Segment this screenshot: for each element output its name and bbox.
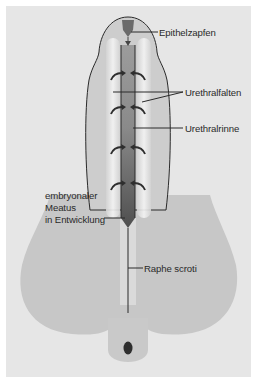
label-epithelzapfen: Epithelzapfen [159,27,216,38]
label-raphe-scroti: Raphe scroti [144,263,197,274]
anal-opening [124,342,133,355]
label-meatus-line3: in Entwicklung [45,214,105,225]
label-meatus-line1: embryonaler [45,190,97,201]
genital-development-diagram [0,0,257,385]
label-urethralrinne: Urethralrinne [185,123,239,134]
label-meatus-line2: Meatus [45,202,76,213]
perineal-tip [108,318,148,362]
label-urethralfalten: Urethralfalten [185,87,241,98]
